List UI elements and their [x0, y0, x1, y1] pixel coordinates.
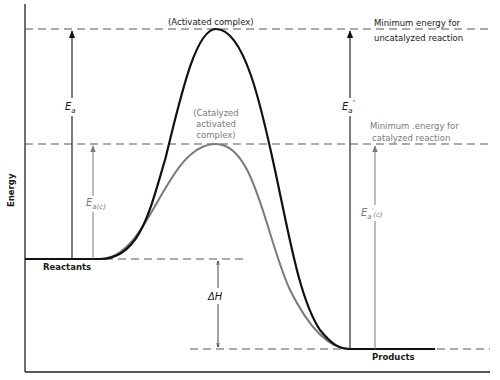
min-energy-uncatalyzed-line1: Minimum energy for	[374, 18, 461, 28]
axes	[25, 4, 490, 372]
energy-diagram: (Activated complex) (Catalyzed activated…	[0, 0, 500, 380]
catalyzed-complex-label-1: (Catalyzed	[193, 108, 238, 118]
catalyzed-complex-label-3: complex)	[196, 130, 235, 140]
catalyzed-complex-label-2: activated	[196, 119, 236, 129]
min-energy-catalyzed-line1: Minimum .energy for	[370, 121, 459, 131]
energy-axis-label: Energy	[6, 173, 16, 207]
activated-complex-label: (Activated complex)	[168, 17, 254, 27]
reactants-label: Reactants	[43, 262, 91, 272]
min-energy-catalyzed-line2: catalyzed reaction	[372, 133, 450, 143]
products-label: Products	[372, 352, 415, 362]
delta-h-symbol: ΔH	[207, 291, 223, 302]
reference-levels	[25, 29, 490, 349]
min-energy-uncatalyzed-line2: uncatalyzed reaction	[374, 33, 463, 43]
